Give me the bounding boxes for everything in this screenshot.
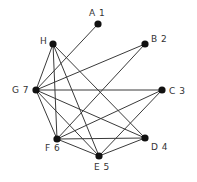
edge-d4-f6 bbox=[57, 138, 145, 139]
node-a1 bbox=[94, 20, 101, 27]
node-label-e5: E 5 bbox=[94, 162, 110, 172]
node-b2 bbox=[141, 40, 148, 47]
edge-c3-f6 bbox=[57, 90, 162, 139]
node-e5 bbox=[95, 152, 102, 159]
node-g7 bbox=[32, 86, 39, 93]
node-label-h: H bbox=[40, 36, 47, 46]
node-label-g7: G 7 bbox=[12, 85, 29, 95]
node-label-c3: C 3 bbox=[169, 86, 185, 96]
edge-d4-e5 bbox=[99, 138, 145, 156]
node-label-b2: B 2 bbox=[151, 34, 167, 44]
node-label-a1: A 1 bbox=[89, 8, 105, 18]
node-c3 bbox=[158, 86, 165, 93]
edge-b2-g7 bbox=[36, 44, 145, 90]
edge-g7-h bbox=[36, 44, 53, 90]
edge-f6-h bbox=[53, 44, 57, 139]
edge-d4-h bbox=[53, 44, 145, 138]
edge-d4-g7 bbox=[36, 90, 145, 138]
node-f6 bbox=[53, 135, 60, 142]
graph-diagram: A 1HB 2G 7C 3F 6D 4E 5 bbox=[0, 0, 197, 182]
node-label-d4: D 4 bbox=[151, 142, 168, 152]
node-h bbox=[49, 40, 56, 47]
node-label-f6: F 6 bbox=[45, 143, 60, 153]
node-d4 bbox=[141, 134, 148, 141]
